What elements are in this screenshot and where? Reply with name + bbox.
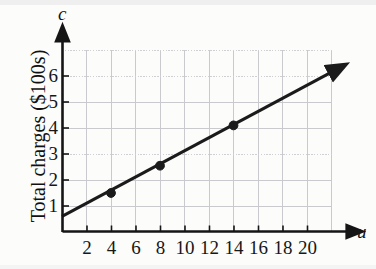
y-tick-label: 5 xyxy=(38,92,58,111)
y-tick-label: 1 xyxy=(38,196,58,215)
chart-figure: c u Total charges ($100s) 123456 2468101… xyxy=(0,0,376,269)
x-tick-label: 20 xyxy=(291,238,325,257)
y-tick-label: 6 xyxy=(38,66,58,85)
y-tick-label: 4 xyxy=(38,118,58,137)
y-tick-label: 3 xyxy=(38,144,58,163)
y-tick-label: 2 xyxy=(38,170,58,189)
